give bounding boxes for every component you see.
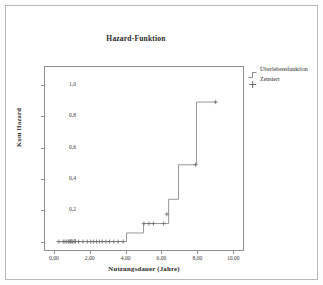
legend-label-censored: Zensiert	[260, 75, 280, 84]
x-tick-label: 4,00	[111, 255, 141, 261]
legend-label-survival: Überlebensfunktion	[260, 65, 308, 74]
x-tick-mark	[54, 251, 55, 254]
censored-plus-marker	[100, 239, 104, 243]
x-tick-mark	[197, 251, 198, 254]
censored-plus-marker	[162, 221, 166, 225]
x-tick-label: 8,00	[182, 255, 212, 261]
plot-canvas	[44, 66, 244, 251]
legend-item-survival: Überlebensfunktion	[248, 65, 323, 74]
chart-screenshot: Hazard-Funktion Kum Hazard Nutzungsdauer…	[0, 0, 323, 285]
chart-legend: Überlebensfunktion Zensiert	[248, 65, 323, 85]
censored-plus-marker	[73, 239, 77, 243]
chart-title: Hazard-Funktion	[6, 34, 266, 43]
x-tick-mark	[233, 251, 234, 254]
x-tick-label: 6,00	[146, 255, 176, 261]
x-tick-label: 2,00	[75, 255, 105, 261]
censored-markers	[57, 100, 218, 244]
censored-plus-marker	[142, 221, 146, 225]
x-tick-mark	[90, 251, 91, 254]
censored-plus-marker	[151, 221, 155, 225]
censored-plus-marker	[104, 239, 108, 243]
x-tick-mark	[126, 251, 127, 254]
image-outer-border: Hazard-Funktion Kum Hazard Nutzungsdauer…	[5, 5, 318, 280]
censored-plus-marker	[107, 239, 111, 243]
step-line-icon	[248, 65, 260, 74]
x-tick-label: 10,00	[218, 255, 248, 261]
censored-plus-marker	[193, 163, 197, 167]
censored-plus-marker	[121, 239, 125, 243]
y-axis-title: Kum Hazard	[15, 93, 22, 163]
censored-plus-marker	[112, 239, 116, 243]
x-axis-title: Nutzungsdauer (Jahre)	[44, 265, 244, 272]
x-tick-label: 0,00	[39, 255, 69, 261]
legend-item-censored: Zensiert	[248, 75, 323, 84]
censored-plus-marker	[81, 239, 85, 243]
censored-plus-marker	[85, 239, 89, 243]
censored-plus-marker	[57, 239, 61, 243]
censored-plus-marker	[77, 239, 81, 243]
survival-step-line	[57, 102, 217, 242]
hazard-step-curve	[44, 66, 244, 251]
plus-icon	[248, 75, 260, 84]
censored-plus-marker	[116, 239, 120, 243]
x-tick-mark	[161, 251, 162, 254]
censored-plus-marker	[214, 100, 218, 104]
censored-plus-marker	[147, 221, 151, 225]
